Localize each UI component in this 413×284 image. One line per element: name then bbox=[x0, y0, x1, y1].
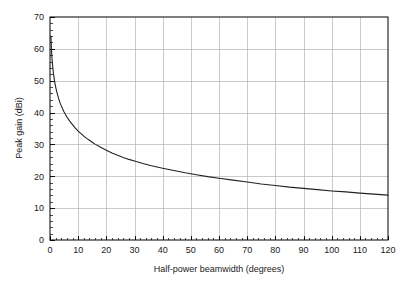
x-tick-label: 120 bbox=[380, 245, 395, 255]
chart-background bbox=[0, 0, 413, 284]
x-tick-label: 60 bbox=[214, 245, 224, 255]
y-tick-label: 50 bbox=[34, 76, 44, 86]
peak-gain-vs-beamwidth-chart: 0102030405060708090100110120 01020304050… bbox=[0, 0, 413, 284]
y-tick-label: 30 bbox=[34, 140, 44, 150]
x-tick-label: 110 bbox=[353, 245, 367, 255]
y-tick-label: 10 bbox=[34, 203, 44, 213]
x-tick-label: 50 bbox=[186, 245, 196, 255]
x-tick-label: 100 bbox=[324, 245, 339, 255]
y-tick-label: 0 bbox=[39, 235, 44, 245]
x-tick-label: 80 bbox=[270, 245, 280, 255]
y-axis-title: Peak gain (dBi) bbox=[14, 97, 24, 159]
x-tick-label: 30 bbox=[129, 245, 139, 255]
y-tick-label: 20 bbox=[34, 172, 44, 182]
chart-figure: 0102030405060708090100110120 01020304050… bbox=[0, 0, 413, 284]
x-tick-label: 20 bbox=[101, 245, 111, 255]
y-tick-label: 40 bbox=[34, 108, 44, 118]
y-tick-label: 60 bbox=[34, 44, 44, 54]
y-tick-label: 70 bbox=[34, 12, 44, 22]
x-tick-label: 40 bbox=[158, 245, 168, 255]
x-tick-label: 0 bbox=[47, 245, 52, 255]
x-tick-label: 10 bbox=[73, 245, 83, 255]
x-tick-label: 70 bbox=[242, 245, 252, 255]
x-axis-title: Half-power beamwidth (degrees) bbox=[154, 264, 285, 274]
x-tick-label: 90 bbox=[298, 245, 308, 255]
